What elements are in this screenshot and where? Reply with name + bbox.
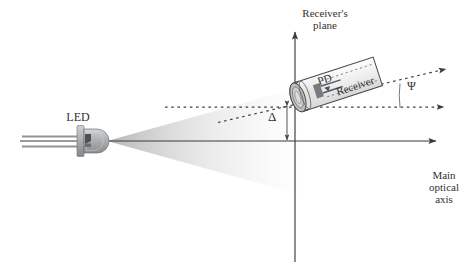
receivers-plane-label: Receiver's plane [283,8,367,32]
led-die [85,134,91,147]
led-flange [77,126,84,157]
delta-offset-label: Δ [268,110,276,124]
optical-geometry-figure: PD Receiver Receiver's plane Main optica… [0,0,472,265]
receiver-tube: PD Receiver [287,57,383,114]
psi-angle-label: Ψ [407,80,416,93]
led-label: LED [58,111,98,124]
diagram-canvas: PD Receiver [0,0,472,265]
main-optical-axis-label: Main optical axis [418,170,470,206]
incidence-angle [399,84,400,108]
